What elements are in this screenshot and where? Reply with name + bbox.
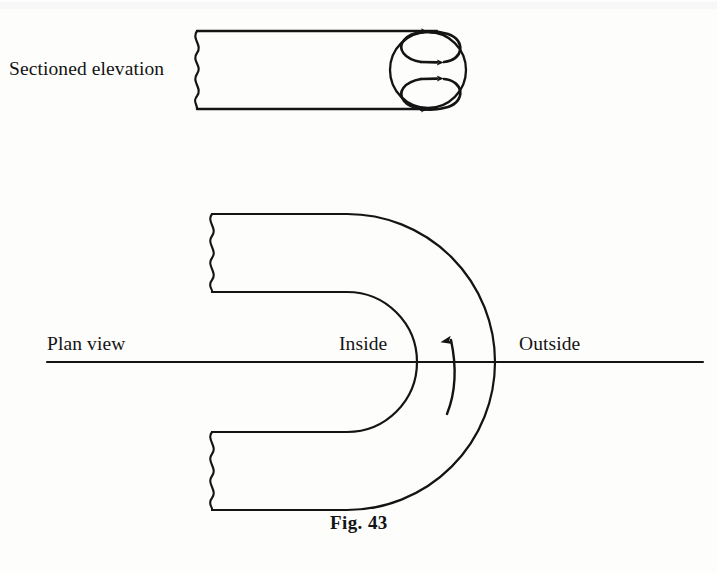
label-inside: Inside xyxy=(339,333,387,355)
elevation-upper-vortex-loop xyxy=(401,31,460,62)
figure-root: Sectioned elevation Plan view Inside Out… xyxy=(0,0,717,572)
figure-caption: Fig. 43 xyxy=(330,512,388,534)
label-outside: Outside xyxy=(519,333,580,355)
elevation-lower-vortex-arrow-bottom xyxy=(421,108,436,109)
plan-view-drawing xyxy=(47,214,703,510)
elevation-lower-vortex-loop xyxy=(401,79,460,110)
elevation-upper-vortex-arrow-top xyxy=(421,31,436,32)
figure-drawing xyxy=(0,0,717,572)
sectioned-elevation-drawing xyxy=(195,31,466,110)
plan-lower-break-line xyxy=(210,432,214,510)
elevation-break-line xyxy=(195,31,199,109)
plan-flow-direction-arrow xyxy=(447,340,454,414)
plan-upper-break-line xyxy=(210,214,214,292)
label-plan-view: Plan view xyxy=(47,333,125,355)
label-sectioned-elevation: Sectioned elevation xyxy=(9,58,164,80)
